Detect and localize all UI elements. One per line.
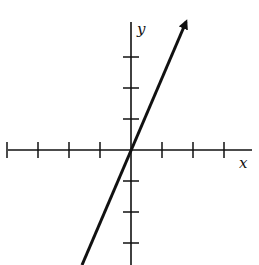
coordinate-plane: x y (0, 0, 259, 265)
y-axis-label: y (136, 20, 146, 38)
x-axis-label: x (239, 154, 248, 172)
axes (8, 22, 252, 265)
function-line (82, 22, 186, 265)
